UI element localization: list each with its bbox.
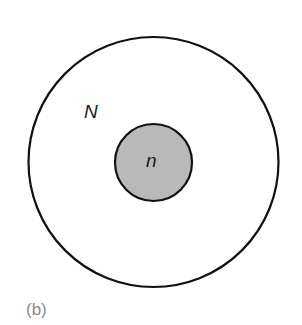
panel-label: (b) xyxy=(26,300,47,320)
inner-set-label: n xyxy=(146,150,157,172)
outer-set-label: N xyxy=(84,101,98,123)
